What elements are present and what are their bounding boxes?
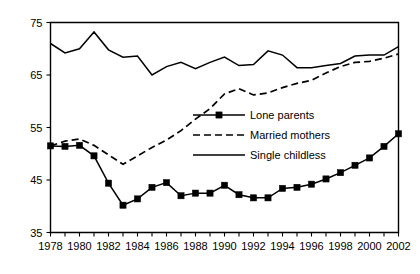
y-tick-label: 35 [30,227,42,239]
legend-swatch-marker [216,112,222,118]
data-point-marker [134,196,140,202]
x-tick-label: 2002 [386,240,410,252]
y-tick-label: 45 [30,174,42,186]
legend-label: Lone parents [250,109,315,121]
data-point-marker [236,192,242,198]
data-point-marker [91,153,97,159]
series-single-childless [51,32,399,75]
series-path [51,54,399,164]
data-point-marker [279,185,285,191]
legend-item: Married mothers [193,129,331,141]
y-tick-label: 55 [30,122,42,134]
plot-border [51,23,399,233]
chart-legend: Lone parentsMarried mothersSingle childl… [193,109,331,161]
data-point-marker [149,184,155,190]
data-point-marker [265,195,271,201]
data-point-marker [76,142,82,148]
y-tick-label: 65 [30,69,42,81]
data-point-marker [47,143,53,149]
x-tick-label: 1996 [299,240,323,252]
x-tick-label: 1992 [241,240,265,252]
data-point-marker [120,202,126,208]
y-tick-label: 75 [30,17,42,29]
legend-item: Single childless [193,149,326,161]
x-tick-label: 1978 [38,240,62,252]
data-point-marker [207,190,213,196]
data-point-marker [337,170,343,176]
series-lone-parents [47,131,401,209]
series-married-mothers [51,54,399,164]
line-chart: 3545556575 19781980198219841986198819901… [0,0,420,274]
legend-item: Lone parents [193,109,315,121]
data-point-marker [221,182,227,188]
data-point-marker [323,176,329,182]
y-axis-tick-labels: 3545556575 [30,17,42,239]
data-point-marker [192,190,198,196]
legend-label: Single childless [250,149,326,161]
x-tick-label: 1988 [183,240,207,252]
x-tick-label: 1982 [96,240,120,252]
x-tick-label: 2000 [357,240,381,252]
data-point-marker [178,193,184,199]
data-point-marker [294,184,300,190]
series-path [51,32,399,75]
data-point-marker [366,155,372,161]
data-point-marker [308,181,314,187]
data-point-marker [163,180,169,186]
legend-label: Married mothers [250,129,331,141]
data-point-marker [105,180,111,186]
x-tick-label: 1994 [270,240,294,252]
chart-container: 3545556575 19781980198219841986198819901… [0,0,420,274]
series-path [51,134,399,205]
x-tick-label: 1998 [328,240,352,252]
x-tick-label: 1986 [154,240,178,252]
x-tick-label: 1980 [67,240,91,252]
data-point-marker [395,131,401,137]
x-tick-label: 1990 [212,240,236,252]
data-point-marker [250,195,256,201]
data-point-marker [352,162,358,168]
x-tick-label: 1984 [125,240,149,252]
data-point-marker [62,143,68,149]
x-axis-tick-labels: 1978198019821984198619881990199219941996… [38,240,410,252]
plot-frame [51,23,399,233]
data-point-marker [381,143,387,149]
